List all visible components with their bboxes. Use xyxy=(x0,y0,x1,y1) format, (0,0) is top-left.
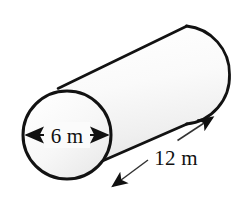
cylinder-figure: 6 m 12 m xyxy=(0,0,250,215)
length-arrow-lower-left xyxy=(113,160,148,186)
length-label: 12 m xyxy=(154,146,197,170)
diameter-label: 6 m xyxy=(51,124,84,148)
cylinder-illustration: 6 m 12 m xyxy=(0,0,250,215)
